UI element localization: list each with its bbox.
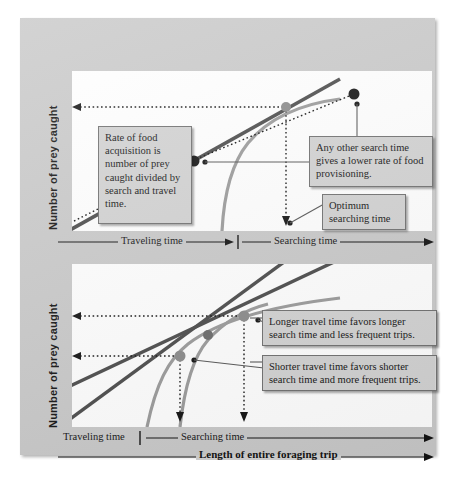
- axis-arrows-top: [56, 234, 440, 250]
- callout-longer-travel-time: Longer travel time favors longer search …: [262, 310, 437, 346]
- axis-label-searching-time-bottom: Searching time: [178, 431, 247, 442]
- axis-caption-top: Traveling time Searching time: [56, 234, 440, 250]
- yield-arrow-upper-bottom: [72, 312, 81, 320]
- callout-optimum-searching-time: Optimum searching time: [322, 194, 406, 230]
- dropline-arrow-long-travel: [240, 412, 248, 422]
- y-axis-label-top: Number of prey caught: [47, 80, 59, 230]
- figure-page: Number of prey caught: [0, 0, 461, 480]
- callout-rate-of-food-acquisition: Rate of food acquisition is number of pr…: [98, 126, 192, 224]
- axis-label-length-of-foraging-trip: Length of entire foraging trip: [196, 448, 341, 460]
- axis-label-traveling-time-bottom: Traveling time: [60, 431, 128, 442]
- short-travel-optimum-point: [175, 351, 186, 362]
- figure-panel: Number of prey caught: [20, 18, 435, 455]
- suboptimal-long-point-top: [349, 89, 360, 100]
- axis-caption-overall: Length of entire foraging trip: [56, 448, 440, 465]
- axis-caption-bottom-segments: Traveling time Searching time: [56, 430, 440, 446]
- long-travel-optimum-point: [239, 311, 250, 322]
- callout-shorter-travel-time: Shorter travel time favors shorter searc…: [262, 355, 437, 391]
- axis-label-searching-time-top: Searching time: [271, 235, 340, 246]
- yield-arrow-top: [72, 103, 81, 111]
- leader-line-optimum-top: [290, 204, 324, 223]
- callout-any-other-search-time: Any other search time gives a lower rate…: [309, 136, 433, 187]
- y-axis-label-bottom: Number of prey caught: [47, 273, 59, 428]
- mid-tangency-point: [203, 330, 213, 340]
- optimum-tangency-point-top: [281, 102, 291, 112]
- yield-arrow-lower-bottom: [72, 352, 81, 360]
- axis-label-traveling-time-top: Traveling time: [118, 235, 186, 246]
